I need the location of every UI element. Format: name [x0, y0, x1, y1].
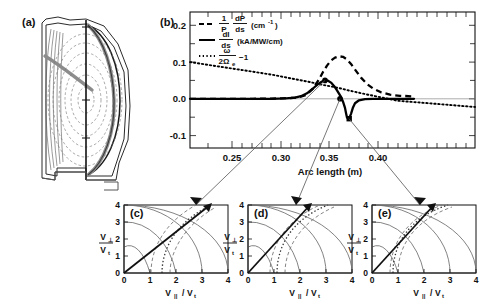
panel-d-xaxis-title: V || / V t	[289, 288, 320, 299]
panel-d-xtick-0: 0	[246, 275, 251, 285]
panel-c-xaxis-vt: V	[187, 288, 193, 298]
panel-e-xaxis-vt: V	[435, 288, 441, 298]
panel-d-ytick-2: 2	[239, 234, 244, 244]
panel-c: (c) 0 1 2 3 4 0 1 2 3	[99, 200, 231, 299]
panel-d-yaxis-v: V	[224, 232, 230, 242]
panel-e-yaxis-title: V ⊥ V t	[347, 232, 361, 256]
panel-e-yaxis-t: t	[356, 250, 358, 256]
panel-e-ytick-4: 4	[363, 200, 368, 210]
panel-d-xtick-1: 1	[272, 275, 277, 285]
plot-b-legend: 1 P dP ds (cm -1 ) dI ds (kA/MW/cm) ω	[199, 14, 283, 67]
panel-d-yaxis-perp: ⊥	[232, 237, 237, 243]
panel-a-label: (a)	[22, 16, 36, 28]
panel-d-yaxis-title: V ⊥ V t	[223, 232, 237, 256]
panel-c-ytick-0: 0	[115, 268, 120, 278]
panel-e-yaxis-vt: V	[348, 245, 354, 255]
panel-c-ytick-2: 2	[115, 234, 120, 244]
panel-c-yaxis-title: V ⊥ V t	[99, 232, 113, 256]
panel-c-label: (c)	[130, 207, 144, 219]
panel-e-xtick-0: 0	[370, 275, 375, 285]
panel-d-xaxis-t: t	[318, 293, 320, 299]
plot-b-xtick-2: 0.35	[320, 152, 339, 163]
legend-units-2: (kA/MW/cm)	[237, 37, 283, 46]
panel-d-xaxis-slash: /	[306, 288, 309, 298]
panel-e-ytick-2: 2	[363, 234, 368, 244]
panel-c-xtick-1: 1	[148, 275, 153, 285]
panel-e: (e) 0 1 2 3 4 0 1 2 3	[347, 200, 479, 299]
plot-b-ytick-3: -0.1	[170, 130, 187, 141]
plot-b-ytick-0: 0.2	[173, 20, 186, 31]
panel-d-xtick-3: 3	[324, 275, 329, 285]
panel-e-label: (e)	[378, 207, 392, 219]
series-di-ds	[190, 80, 414, 119]
legend-frac2-den: ds	[235, 25, 245, 34]
panel-c-xaxis-slash: /	[182, 288, 185, 298]
plot-b-ytick-2: 0.0	[173, 93, 186, 104]
panel-c-xaxis-title: V || / V t	[165, 288, 196, 299]
divertor-structure	[42, 172, 118, 190]
panel-d-label: (d)	[254, 207, 268, 219]
panel-d-xaxis-par: ||	[298, 293, 302, 299]
panel-c-xaxis-par: ||	[174, 293, 178, 299]
panel-e-xtick-2: 2	[422, 275, 427, 285]
panel-e-ytick-1: 1	[363, 251, 368, 261]
panel-d-yaxis-vt: V	[224, 245, 230, 255]
plot-b-ticks	[190, 12, 475, 148]
panel-c-yaxis-vt: V	[100, 245, 106, 255]
panel-e-xaxis-t: t	[442, 293, 444, 299]
plot-b-ytick-1: 0.1	[173, 57, 187, 68]
panel-d-ytick-1: 1	[239, 251, 244, 261]
panel-d-yaxis-t: t	[232, 250, 234, 256]
legend-entry-omega: ω 2Ω e −1	[219, 46, 249, 67]
legend-units-exp: -1	[268, 19, 274, 25]
legend-units-close: )	[275, 21, 278, 30]
panel-e-ytick-0: 0	[363, 268, 368, 278]
panel-d-xaxis-v: V	[289, 288, 295, 298]
legend-frac4-num: ω	[224, 46, 231, 55]
legend-units-open: (cm	[251, 21, 265, 30]
panel-d-xaxis-vt: V	[311, 288, 317, 298]
plot-b-xtick-0: 0.25	[223, 152, 242, 163]
panel-e-xaxis-title: V || / V t	[413, 288, 444, 299]
panel-c-resonance-dotted	[162, 205, 212, 273]
panel-a: (a)	[22, 16, 130, 190]
panel-d-ytick-3: 3	[239, 217, 244, 227]
panel-c-yaxis-perp: ⊥	[108, 237, 113, 243]
panel-d: (d) 0 1 2 3 4 0 1 2 3	[223, 200, 355, 299]
panel-d-ytick-4: 4	[239, 200, 244, 210]
figure-root: (a)	[0, 0, 487, 308]
legend-frac4-den-sub: e	[232, 61, 236, 67]
panel-e-yaxis-v: V	[348, 232, 354, 242]
legend-frac1-num: 1	[222, 14, 227, 23]
panel-d-ytick-0: 0	[239, 268, 244, 278]
figure-svg: (a)	[0, 0, 487, 308]
panel-d-xtick-4: 4	[350, 275, 355, 285]
panel-c-ytick-4: 4	[115, 200, 120, 210]
panel-c-xtick-0: 0	[122, 275, 127, 285]
panel-c-ytick-3: 3	[115, 217, 120, 227]
panel-e-xtick-4: 4	[474, 275, 479, 285]
panel-c-yaxis-t: t	[108, 250, 110, 256]
legend-frac2-num: dP	[235, 14, 246, 23]
panel-c-ytick-1: 1	[115, 251, 120, 261]
panel-e-ytick-3: 3	[363, 217, 368, 227]
annotation-arrowheads	[190, 196, 426, 205]
panel-e-xaxis-v: V	[413, 288, 419, 298]
panel-c-yaxis-v: V	[100, 232, 106, 242]
legend-frac3-num: dI	[222, 30, 229, 39]
panel-c-xtick-3: 3	[200, 275, 205, 285]
panel-e-xaxis-slash: /	[430, 288, 433, 298]
legend-frac4-den: 2Ω	[219, 57, 230, 66]
panel-e-yaxis-perp: ⊥	[356, 237, 361, 243]
panel-d-xtick-2: 2	[298, 275, 303, 285]
plot-b-xaxis-title: Arc length (m)	[298, 166, 362, 177]
panel-e-xaxis-par: ||	[422, 293, 426, 299]
panel-e-xtick-1: 1	[396, 275, 401, 285]
panel-c-xtick-2: 2	[174, 275, 179, 285]
panel-c-xtick-4: 4	[226, 275, 231, 285]
panel-c-resonance-dashed	[151, 205, 216, 273]
panel-c-ray-arrow	[203, 203, 212, 212]
legend-omega-tail: −1	[239, 53, 249, 62]
panel-e-xtick-3: 3	[448, 275, 453, 285]
plot-b-xtick-1: 0.30	[272, 152, 291, 163]
